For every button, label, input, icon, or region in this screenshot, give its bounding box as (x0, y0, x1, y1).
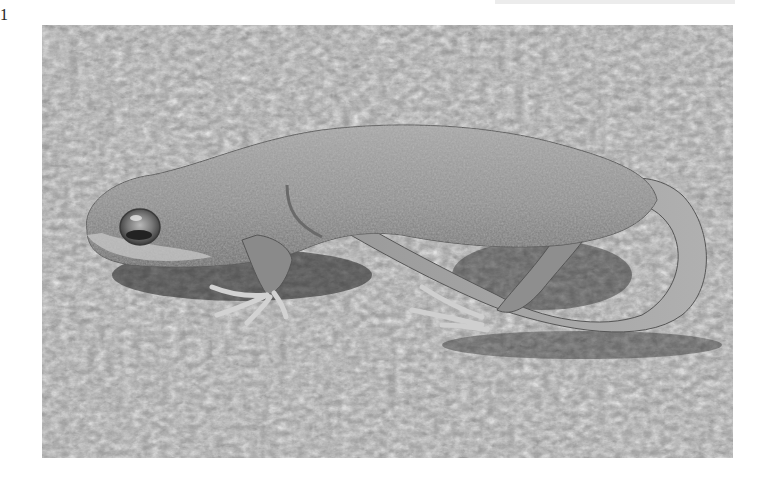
scan-artifact-strip (495, 0, 735, 4)
page-number: 1 (0, 7, 8, 23)
shadow-under-tail (442, 331, 722, 359)
photo-canvas (42, 25, 733, 458)
newt-pupil (126, 230, 152, 240)
newt-eye-glint (130, 215, 142, 221)
newt-photograph (42, 25, 733, 458)
